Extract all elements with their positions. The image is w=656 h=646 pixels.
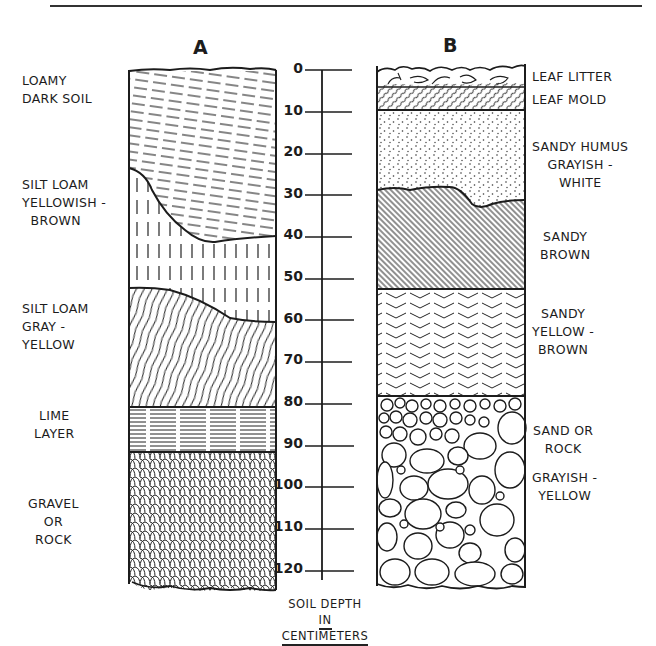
layer-b-sandy-yellow-brown xyxy=(377,290,525,396)
depth-scale xyxy=(305,70,354,580)
layer-b-sand-or-rock xyxy=(377,397,526,587)
profile-b-column xyxy=(377,64,526,589)
layer-a-lime-layer xyxy=(129,407,276,452)
layer-b-leaf-mold xyxy=(377,83,525,110)
profile-a-column xyxy=(129,68,276,591)
layer-a-gravel-or-rock xyxy=(129,452,276,591)
